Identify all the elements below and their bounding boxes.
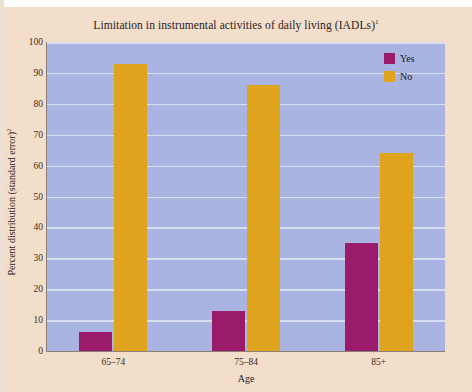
y-axis-title-text: Percent distribution (standard error): [6, 132, 17, 276]
chart-title-footnote-marker: 1: [375, 18, 379, 26]
bar-yes-0: [79, 332, 112, 351]
chart-title: Limitation in instrumental activities of…: [0, 18, 472, 31]
bar-no-0: [114, 64, 147, 351]
page-edge-top: [0, 0, 472, 7]
x-tick-label: 85+: [371, 357, 386, 367]
legend-swatch-icon: [384, 71, 395, 82]
chart-title-text: Limitation in instrumental activities of…: [93, 19, 375, 31]
chart-legend: YesNo: [384, 52, 440, 88]
y-tick-label: 10: [3, 315, 43, 325]
gridline: [47, 42, 445, 44]
plot-area: [47, 42, 445, 351]
y-axis-title: Percent distribution (standard error)2: [5, 102, 17, 302]
bar-no-1: [247, 85, 280, 351]
bar-no-2: [380, 153, 413, 351]
legend-label: Yes: [400, 53, 415, 64]
chart-figure: Limitation in instrumental activities of…: [0, 0, 472, 392]
x-tick-label: 75–84: [234, 357, 258, 367]
legend-item-no: No: [384, 70, 440, 83]
gridline: [47, 104, 445, 106]
gridline: [47, 135, 445, 137]
y-axis-footnote-marker: 2: [5, 129, 12, 132]
x-tick-label: 65–74: [101, 357, 125, 367]
legend-swatch-icon: [384, 53, 395, 64]
bar-yes-1: [212, 311, 245, 351]
y-tick-label: 100: [3, 37, 43, 47]
y-tick-label: 0: [3, 346, 43, 356]
legend-label: No: [400, 71, 412, 82]
legend-item-yes: Yes: [384, 52, 440, 65]
x-axis-title: Age: [47, 373, 445, 384]
bar-yes-2: [345, 243, 378, 351]
y-axis-line: [46, 42, 47, 352]
x-axis-line: [46, 351, 445, 352]
y-tick-label: 90: [3, 68, 43, 78]
